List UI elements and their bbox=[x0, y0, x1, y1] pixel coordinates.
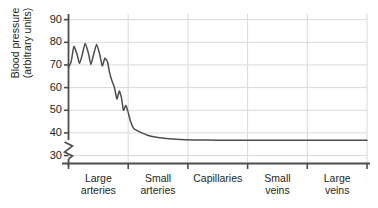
y-tick-label: 60 bbox=[40, 82, 62, 93]
y-axis-label-line-1: Blood pressure bbox=[9, 8, 22, 79]
data-series-line bbox=[69, 43, 368, 140]
y-axis-label-line-2: (arbitrary units) bbox=[21, 8, 34, 79]
y-tick-label: 90 bbox=[40, 14, 62, 25]
gridlines-group bbox=[69, 14, 368, 164]
chart-container: Blood pressure (arbitrary units) 3040506… bbox=[0, 0, 378, 208]
y-tick-label: 80 bbox=[40, 36, 62, 47]
x-category-label: Largeveins bbox=[301, 172, 373, 196]
x-category-label-line: veins bbox=[301, 184, 373, 196]
x-category-label-line: Large bbox=[301, 172, 373, 184]
x-category-label-line: arteries bbox=[122, 184, 194, 196]
y-axis-break-icon bbox=[65, 142, 73, 159]
y-tick-label: 70 bbox=[40, 59, 62, 70]
y-tick-label: 50 bbox=[40, 104, 62, 115]
y-tick-label: 40 bbox=[40, 127, 62, 138]
y-tick-label: 30 bbox=[40, 150, 62, 161]
y-axis-label: Blood pressure (arbitrary units) bbox=[0, 0, 42, 105]
